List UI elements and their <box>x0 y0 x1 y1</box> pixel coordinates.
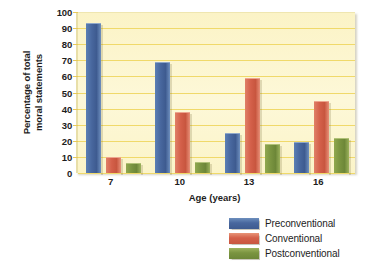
x-axis-tick-label-7: 7 <box>91 176 131 187</box>
y-axis-tick-label: 90 <box>48 23 72 34</box>
gridline <box>78 93 355 94</box>
y-axis-tickmark <box>73 125 78 126</box>
bar-body <box>334 138 349 173</box>
bar-body <box>195 162 210 173</box>
bar-preconventional-age-10 <box>155 62 170 173</box>
legend-item-preconventional[interactable]: Preconventional <box>229 216 371 230</box>
legend-label: Preconventional <box>265 218 335 229</box>
y-axis-tick-label: 80 <box>48 39 72 50</box>
legend-swatch-icon <box>229 218 259 229</box>
y-axis-tickmark <box>73 44 78 45</box>
y-axis-title-line2: moral statements <box>33 51 45 135</box>
moral-statements-bar-chart: Percentage of total moral statements 010… <box>0 0 371 264</box>
bar-conventional-age-16 <box>314 101 329 173</box>
y-axis-tickmark <box>73 141 78 142</box>
bar-body <box>265 144 280 173</box>
bar-shadow <box>170 64 172 175</box>
gridline <box>78 76 355 77</box>
x-axis-tick-label-16: 16 <box>298 176 338 187</box>
x-axis-tick-label-10: 10 <box>160 176 200 187</box>
y-axis-tick-label: 30 <box>48 119 72 130</box>
bar-body <box>314 101 329 173</box>
x-axis-tick-labels: 7101316 <box>76 176 353 190</box>
bar-shadow <box>240 135 242 175</box>
y-axis-tick-label: 0 <box>48 168 72 179</box>
bar-body <box>106 157 121 173</box>
bar-postconventional-age-7 <box>126 163 141 173</box>
legend-item-postconventional[interactable]: Postconventional <box>229 246 371 260</box>
legend-label: Conventional <box>265 233 322 244</box>
x-axis-tick-label-13: 13 <box>229 176 269 187</box>
bar-shadow <box>141 165 143 175</box>
bar-body <box>175 112 190 173</box>
gridline <box>78 173 355 174</box>
bar-shadow <box>349 140 351 175</box>
y-axis-tick-label: 40 <box>48 103 72 114</box>
bar-shadow <box>309 144 311 175</box>
bar-shadow <box>260 80 262 175</box>
y-axis-tick-labels: 0102030405060708090100 <box>48 12 72 173</box>
legend-item-conventional[interactable]: Conventional <box>229 231 371 245</box>
bar-preconventional-age-13 <box>225 133 240 173</box>
y-axis-tickmark <box>73 12 78 13</box>
legend-label: Postconventional <box>265 248 340 259</box>
bar-shadow <box>280 146 282 175</box>
y-axis-tickmark <box>73 76 78 77</box>
bar-postconventional-age-13 <box>265 144 280 173</box>
bar-shadow <box>101 25 103 175</box>
gridline <box>78 12 355 13</box>
bar-postconventional-age-10 <box>195 162 210 173</box>
bar-body <box>245 78 260 173</box>
y-axis-tick-label: 60 <box>48 71 72 82</box>
y-axis-tick-label: 10 <box>48 151 72 162</box>
bar-body <box>155 62 170 173</box>
x-axis-title: Age (years) <box>76 192 353 203</box>
gridline <box>78 28 355 29</box>
bar-shadow <box>190 114 192 175</box>
y-axis-tick-label: 20 <box>48 135 72 146</box>
bar-body <box>294 142 309 173</box>
y-axis-tickmark <box>73 157 78 158</box>
y-axis-tick-label: 50 <box>48 87 72 98</box>
bar-postconventional-age-16 <box>334 138 349 173</box>
y-axis-tick-label: 70 <box>48 55 72 66</box>
bar-body <box>225 133 240 173</box>
bar-preconventional-age-7 <box>86 23 101 173</box>
gridline <box>78 60 355 61</box>
y-axis-tickmark <box>73 60 78 61</box>
bar-body <box>86 23 101 173</box>
bar-conventional-age-7 <box>106 157 121 173</box>
bar-body <box>126 163 141 173</box>
y-axis-tickmark <box>73 109 78 110</box>
y-axis-tickmark <box>73 93 78 94</box>
plot-area <box>76 12 355 173</box>
bar-conventional-age-10 <box>175 112 190 173</box>
y-axis-title-line1: Percentage of total <box>22 51 33 135</box>
bar-preconventional-age-16 <box>294 142 309 173</box>
chart-legend: PreconventionalConventionalPostconventio… <box>229 216 371 261</box>
y-axis-tick-label: 100 <box>48 7 72 18</box>
y-axis-tickmark <box>73 28 78 29</box>
gridline <box>78 44 355 45</box>
legend-swatch-icon <box>229 248 259 259</box>
legend-swatch-icon <box>229 233 259 244</box>
bar-shadow <box>121 159 123 175</box>
bar-shadow <box>210 164 212 175</box>
bar-conventional-age-13 <box>245 78 260 173</box>
bar-shadow <box>329 103 331 175</box>
